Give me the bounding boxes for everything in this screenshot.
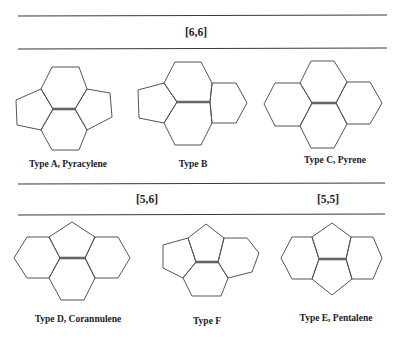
label-type-a: Type A, Pyracylene <box>29 159 107 169</box>
pentagon-ring <box>312 223 351 259</box>
structure-type-b <box>138 62 247 145</box>
label-type-e: Type E, Pentalene <box>300 313 373 323</box>
hexagon-ring <box>218 238 259 278</box>
hexagon-ring <box>41 109 87 150</box>
top-rule <box>18 15 387 16</box>
structure-type-d <box>14 222 130 300</box>
header-rule-1 <box>18 48 387 49</box>
pentagon-ring <box>188 224 224 262</box>
header-5-5: [5,5] <box>317 193 339 205</box>
fused-ring-diagram: [6,6] [5,6] [5,5] Type A, Pyracylene Typ… <box>0 0 397 340</box>
pentagon-ring <box>138 83 177 123</box>
structure-type-f <box>163 224 259 296</box>
pentagon-ring <box>75 89 112 130</box>
label-type-b: Type B <box>179 159 208 169</box>
hexagon-ring <box>300 61 347 103</box>
section-rule <box>18 183 385 184</box>
hexagon-ring <box>164 102 212 145</box>
pentagon-ring <box>163 238 196 278</box>
hexagon-ring <box>210 83 247 123</box>
pentagon-ring <box>16 89 53 130</box>
label-type-d: Type D, Corannulene <box>35 314 122 324</box>
pentagon-ring <box>312 259 352 295</box>
label-type-c: Type C, Pyrene <box>304 155 366 165</box>
hexagon-ring <box>14 237 60 278</box>
hexagon-ring <box>264 83 312 126</box>
structure-type-e <box>281 223 382 295</box>
hexagon-ring <box>164 62 212 102</box>
header-rule-2 <box>18 214 385 215</box>
header-5-6: [5,6] <box>136 193 158 205</box>
structure-type-a <box>16 67 112 150</box>
hexagon-ring <box>281 237 319 279</box>
label-type-f: Type F <box>193 316 221 326</box>
hexagon-ring <box>41 67 87 109</box>
header-6-6: [6,6] <box>185 26 207 38</box>
structure-type-c <box>264 61 382 148</box>
hexagon-ring <box>85 237 130 278</box>
hexagon-ring <box>336 82 382 124</box>
hexagon-ring <box>346 237 382 279</box>
